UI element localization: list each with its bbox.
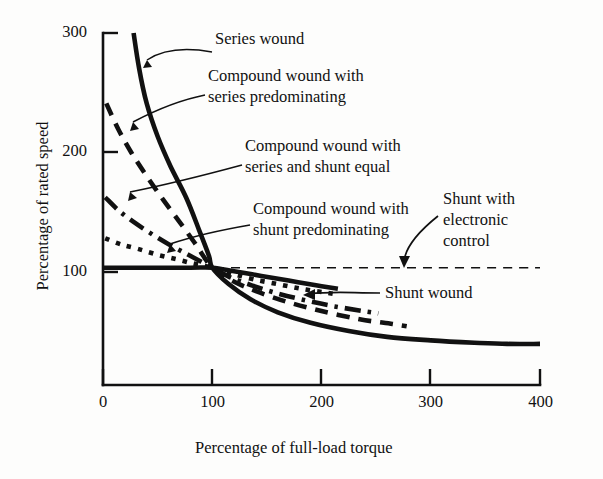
annotation-compound-shunt-predominating: Compound wound with shunt predominating bbox=[253, 198, 409, 240]
leader-compound-series-shunt-equal bbox=[130, 165, 242, 192]
x-tick-label-400: 400 bbox=[518, 392, 563, 412]
leader-compound-shunt-predominating bbox=[170, 225, 250, 244]
x-axis-title: Percentage of full-load torque bbox=[195, 438, 392, 458]
annotation-compound-series-predominating: Compound wound with series predominating bbox=[208, 65, 364, 107]
y-axis-title: Percentage of rated speed bbox=[33, 101, 53, 311]
leader-series-wound bbox=[147, 50, 212, 60]
arrowhead-compound-series-predominating bbox=[130, 122, 139, 131]
arrowhead-compound-series-shunt-equal bbox=[128, 192, 137, 201]
y-tick-label-100: 100 bbox=[52, 261, 97, 281]
annotation-shunt-electronic-control: Shunt with electronic control bbox=[443, 188, 515, 251]
annotation-compound-series-shunt-equal: Compound wound with series and shunt equ… bbox=[245, 135, 401, 177]
annotation-series-wound: Series wound bbox=[215, 28, 304, 49]
leader-shunt-wound bbox=[310, 292, 380, 294]
y-tick-label-300: 300 bbox=[52, 22, 97, 42]
arrowhead-shunt-electronic-control bbox=[399, 256, 410, 268]
annotation-shunt-wound: Shunt wound bbox=[385, 282, 473, 303]
x-tick-label-300: 300 bbox=[408, 392, 453, 412]
y-axis-ticks bbox=[103, 33, 118, 272]
arrowhead-series-wound bbox=[143, 60, 152, 68]
y-tick-label-200: 200 bbox=[52, 141, 97, 161]
x-tick-label-200: 200 bbox=[299, 392, 344, 412]
x-tick-label-0: 0 bbox=[88, 392, 118, 412]
x-axis-ticks bbox=[103, 369, 540, 385]
x-tick-label-100: 100 bbox=[190, 392, 235, 412]
leader-shunt-electronic-control bbox=[404, 216, 438, 262]
chart-figure: Percentage of rated speed Percentage of … bbox=[0, 0, 603, 479]
